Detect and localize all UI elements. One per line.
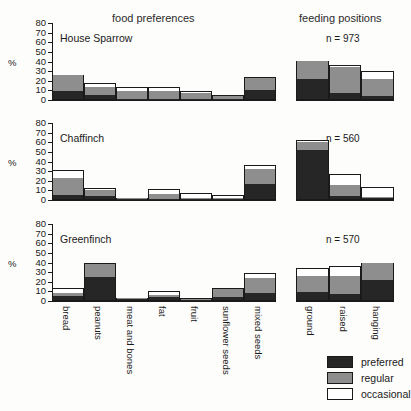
segment-preferred [361, 96, 394, 100]
segment-preferred [244, 293, 276, 301]
y-axis-tick-label: 50 [26, 147, 46, 157]
food-bar-sunflower-seeds [212, 23, 244, 100]
food-bar-fruit [180, 23, 212, 100]
food-bar-mixed-seeds [244, 224, 276, 301]
x-axis-label-position-raised: raised [338, 306, 349, 332]
segment-preferred [329, 196, 362, 200]
segment-preferred [84, 95, 116, 100]
legend-label-occasional: occasional [361, 388, 411, 401]
segment-preferred [296, 292, 329, 301]
segment-preferred [212, 199, 244, 201]
position-bar-raised [329, 224, 362, 301]
y-axis-tick-label: 20 [26, 277, 46, 287]
segment-preferred [52, 91, 84, 100]
segment-preferred [329, 294, 362, 301]
segment-preferred [244, 90, 276, 100]
x-axis-label-food-meat-and-bones: meat and bones [125, 306, 136, 374]
panel-house-sparrow: 01020304050607080House Sparrown = 973% [0, 23, 400, 102]
position-bar-ground [296, 123, 329, 200]
legend-swatch-preferred [327, 356, 353, 368]
x-axis-line-food [52, 301, 276, 302]
legend-label-preferred: preferred [361, 356, 404, 369]
position-bar-hanging [361, 123, 394, 200]
y-axis-tick-label: 0 [26, 95, 46, 105]
position-bar-hanging [361, 224, 394, 301]
food-bar-meat-and-bones [116, 123, 148, 200]
y-axis-tick-label: 40 [26, 258, 46, 268]
y-axis-tick-label: 20 [26, 176, 46, 186]
food-bar-mixed-seeds [244, 23, 276, 100]
segment-preferred [84, 196, 116, 200]
y-axis-unit-label: % [8, 258, 16, 269]
x-axis-label-food-fruit: fruit [189, 306, 200, 322]
segment-preferred [296, 79, 329, 100]
food-bar-bread [52, 23, 84, 100]
x-axis-label-food-mixed-seeds: mixed seeds [253, 306, 264, 359]
y-axis-tick-label: 0 [26, 296, 46, 306]
y-axis-tick-label: 20 [26, 76, 46, 86]
food-bar-fruit [180, 123, 212, 200]
y-axis-unit-label: % [8, 57, 16, 68]
food-bar-peanuts [84, 224, 116, 301]
segment-preferred [180, 99, 212, 101]
segment-preferred [116, 99, 148, 101]
y-axis-tick-label: 50 [26, 248, 46, 258]
segment-preferred [52, 195, 84, 200]
legend-swatch-occasional [327, 388, 353, 400]
segment-preferred [212, 297, 244, 301]
y-axis-tick-label: 30 [26, 66, 46, 76]
x-axis-line-positions [296, 301, 394, 302]
legend-label-regular: regular [361, 372, 394, 385]
y-axis-tick-label: 70 [26, 229, 46, 239]
segment-preferred [296, 150, 329, 200]
segment-preferred [361, 280, 394, 301]
segment-preferred [84, 277, 116, 301]
position-bar-ground [296, 23, 329, 100]
segment-preferred [244, 184, 276, 200]
panel-chaffinch: 01020304050607080Chaffinchn = 560% [0, 123, 400, 202]
segment-preferred [148, 297, 180, 301]
y-axis-tick-label: 80 [26, 118, 46, 128]
food-bar-bread [52, 224, 84, 301]
segment-preferred [148, 99, 180, 101]
segment-preferred [329, 93, 362, 100]
segment-preferred [212, 99, 244, 101]
segment-preferred [116, 199, 148, 201]
x-axis-label-position-hanging: hanging [371, 306, 382, 340]
y-axis-tick-label: 10 [26, 185, 46, 195]
food-bar-meat-and-bones [116, 224, 148, 301]
y-axis-tick-label: 10 [26, 85, 46, 95]
food-bar-fat [148, 123, 180, 200]
food-bar-peanuts [84, 23, 116, 100]
y-axis-tick-label: 30 [26, 267, 46, 277]
x-axis-label-position-ground: ground [305, 306, 316, 336]
food-bar-sunflower-seeds [212, 224, 244, 301]
y-axis-tick-label: 40 [26, 157, 46, 167]
food-bar-fruit [180, 224, 212, 301]
position-bar-raised [329, 123, 362, 200]
food-bar-sunflower-seeds [212, 123, 244, 200]
legend-swatch-regular [327, 372, 353, 384]
y-axis-tick-label: 40 [26, 57, 46, 67]
y-axis-tick-label: 0 [26, 195, 46, 205]
food-bar-bread [52, 123, 84, 200]
food-bar-peanuts [84, 123, 116, 200]
x-axis-line-positions [296, 100, 394, 101]
y-axis-tick-label: 60 [26, 238, 46, 248]
position-bar-hanging [361, 23, 394, 100]
segment-preferred [52, 296, 84, 301]
y-axis-tick-label: 70 [26, 28, 46, 38]
segment-preferred [116, 299, 148, 301]
segment-preferred [148, 199, 180, 201]
x-axis-label-food-fat: fat [157, 306, 168, 317]
segment-preferred [180, 300, 212, 302]
x-axis-label-food-sunflower-seeds: sunflower seeds [221, 306, 232, 375]
x-axis-line-positions [296, 200, 394, 201]
food-bar-fat [148, 23, 180, 100]
panel-greenfinch: 01020304050607080Greenfinchn = 570% [0, 224, 400, 303]
position-bar-raised [329, 23, 362, 100]
x-axis-label-food-peanuts: peanuts [93, 306, 104, 340]
y-axis-unit-label: % [8, 157, 16, 168]
food-bar-meat-and-bones [116, 23, 148, 100]
